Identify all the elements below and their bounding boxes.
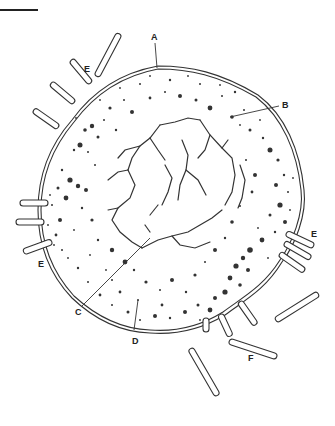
leader-lines (82, 43, 279, 330)
leader-a (155, 43, 157, 68)
leader-c (82, 238, 150, 306)
cell-diagram (0, 0, 335, 426)
label-d: D (132, 337, 139, 346)
label-c: C (75, 308, 82, 317)
cytoplasm-granules (47, 75, 294, 321)
nucleoid (108, 118, 245, 248)
label-b: B (282, 101, 289, 110)
detached-pili (94, 32, 320, 396)
cell-wall (38, 66, 304, 333)
label-e-top: E (84, 65, 90, 74)
label-f: F (248, 354, 254, 363)
label-e-left: E (38, 260, 44, 269)
label-e-right: E (311, 230, 317, 239)
label-a: A (151, 33, 158, 42)
leader-d (134, 300, 138, 330)
